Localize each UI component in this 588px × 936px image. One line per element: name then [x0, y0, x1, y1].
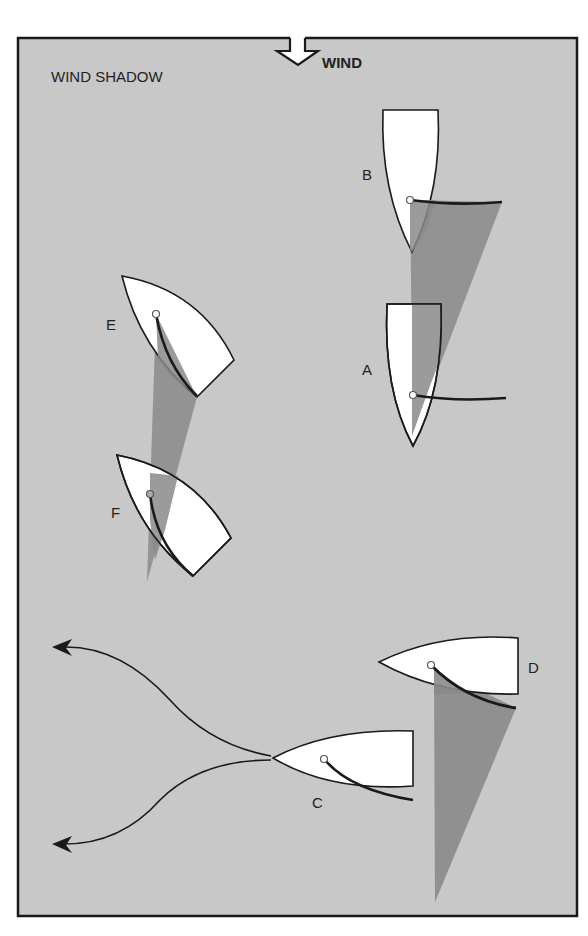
boat-f-label: F [111, 504, 120, 521]
title-label: WIND SHADOW [51, 68, 164, 85]
boat-e-label: E [106, 316, 116, 333]
boat-b-label: B [362, 166, 372, 183]
wind-label: WIND [322, 54, 362, 71]
wind-shadow-diagram: WIND SHADOW WIND B A E F D C [0, 0, 588, 936]
diagram-panel [18, 38, 577, 916]
boat-a-label: A [362, 361, 372, 378]
boat-d-label: D [528, 659, 539, 676]
boat-c-label: C [312, 794, 323, 811]
